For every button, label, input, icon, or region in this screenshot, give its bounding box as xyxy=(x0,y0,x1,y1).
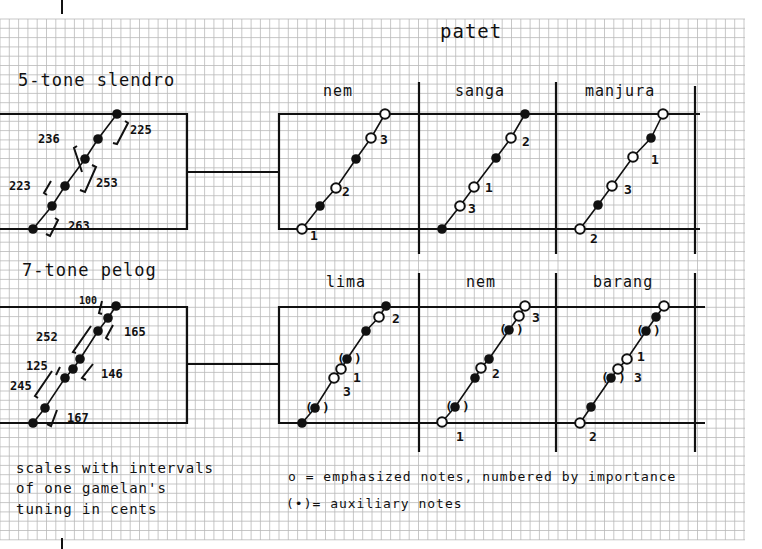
caption-line-3: tuning in cents xyxy=(16,500,157,519)
paren-left: ( xyxy=(601,370,609,385)
emphasized-note-circle xyxy=(437,417,447,427)
emphasized-note-circle xyxy=(455,201,465,211)
auxiliary-note-dot xyxy=(593,200,603,210)
auxiliary-note-dot xyxy=(491,153,501,163)
importance-number: 2 xyxy=(392,311,400,326)
pelog-title: 7-tone pelog xyxy=(22,260,157,280)
auxiliary-note-dot xyxy=(381,301,391,311)
interval-label: 245 xyxy=(10,379,32,393)
importance-number: 2 xyxy=(492,366,500,381)
auxiliary-note-dot xyxy=(470,373,480,383)
paren-right: ) xyxy=(462,399,470,414)
paren-left: ( xyxy=(337,351,345,366)
emphasized-note-circle xyxy=(575,224,585,234)
paren-left: ( xyxy=(445,399,453,414)
importance-number: 1 xyxy=(353,370,361,385)
emphasized-note-circle xyxy=(628,152,638,162)
panel-title-pelog-nem: nem xyxy=(466,273,496,291)
paren-left: ( xyxy=(636,323,644,338)
interval-label: 223 xyxy=(9,179,31,193)
panel-title-slendro-sanga: sanga xyxy=(455,82,505,100)
importance-number: 3 xyxy=(624,182,632,197)
paren-left: ( xyxy=(305,400,313,415)
interval-label: 225 xyxy=(130,123,152,137)
emphasized-note-circle xyxy=(297,224,307,234)
scale-note-dot xyxy=(93,326,103,336)
scale-note-dot xyxy=(47,201,57,211)
auxiliary-note-dot xyxy=(437,224,447,234)
interval-label: 252 xyxy=(36,330,58,344)
importance-number: 3 xyxy=(343,384,351,399)
paren-right: ) xyxy=(354,351,362,366)
scale-note-dot xyxy=(75,354,85,364)
interval-label: 100 xyxy=(79,295,97,306)
importance-number: 2 xyxy=(590,231,598,246)
emphasized-note-circle xyxy=(514,311,524,321)
auxiliary-note-dot xyxy=(351,154,361,164)
main-title-patet: patet xyxy=(440,20,502,42)
legend-auxiliary: (•)= auxiliary notes xyxy=(286,494,463,513)
interval-label: 253 xyxy=(96,176,118,190)
auxiliary-note-dot xyxy=(484,354,494,364)
panel-title-pelog-lima: lima xyxy=(326,273,366,291)
emphasized-note-circle xyxy=(366,133,376,143)
legend-emphasized: o = emphasized notes, numbered by import… xyxy=(288,467,676,486)
emphasized-note-circle xyxy=(329,373,339,383)
interval-label: 165 xyxy=(124,325,146,339)
scale-note-dot xyxy=(60,181,70,191)
interval-label: 263 xyxy=(68,219,90,233)
caption-line-2: of one gamelan's xyxy=(16,479,167,498)
importance-number: 2 xyxy=(342,184,350,199)
scale-note-dot xyxy=(60,373,70,383)
emphasized-note-circle xyxy=(476,363,486,373)
emphasized-note-circle xyxy=(469,182,479,192)
importance-number: 1 xyxy=(485,180,493,195)
paren-right: ) xyxy=(516,322,524,337)
scale-note-dot xyxy=(28,418,38,428)
panel-title-pelog-barang: barang xyxy=(593,273,653,291)
interval-label: 125 xyxy=(26,359,48,373)
importance-number: 3 xyxy=(532,310,540,325)
slendro-title: 5-tone slendro xyxy=(18,70,175,90)
panel-title-slendro-nem: nem xyxy=(323,82,353,100)
paren-right: ) xyxy=(322,400,330,415)
scale-note-dot xyxy=(111,301,121,311)
auxiliary-note-dot xyxy=(315,201,325,211)
emphasized-note-circle xyxy=(506,133,516,143)
scale-note-dot xyxy=(40,403,50,413)
importance-number: 2 xyxy=(589,429,597,444)
auxiliary-note-dot xyxy=(586,402,596,412)
importance-number: 1 xyxy=(651,152,659,167)
scale-note-dot xyxy=(68,364,78,374)
emphasized-note-circle xyxy=(607,181,617,191)
caption-line-1: scales with intervals xyxy=(16,459,214,478)
interval-label: 167 xyxy=(67,411,89,425)
importance-number: 2 xyxy=(522,134,530,149)
importance-number: 1 xyxy=(637,349,645,364)
scale-note-dot xyxy=(103,313,113,323)
emphasized-note-circle xyxy=(374,312,384,322)
importance-number: 1 xyxy=(310,228,318,243)
interval-label: 146 xyxy=(101,367,123,381)
auxiliary-note-dot xyxy=(646,133,656,143)
auxiliary-note-dot xyxy=(361,326,371,336)
emphasized-note-circle xyxy=(658,109,668,119)
panel-title-slendro-manjura: manjura xyxy=(585,82,655,100)
scale-note-dot xyxy=(28,224,38,234)
emphasized-note-circle xyxy=(622,354,632,364)
scale-note-dot xyxy=(112,109,122,119)
importance-number: 3 xyxy=(468,201,476,216)
emphasized-note-circle xyxy=(380,109,390,119)
importance-number: 3 xyxy=(634,370,642,385)
emphasized-note-circle xyxy=(520,301,530,311)
auxiliary-note-dot xyxy=(297,418,307,428)
importance-number: 3 xyxy=(380,132,388,147)
emphasized-note-circle xyxy=(575,418,585,428)
interval-label: 236 xyxy=(38,132,60,146)
scale-note-dot xyxy=(93,134,103,144)
scale-note-dot xyxy=(80,154,90,164)
auxiliary-note-dot xyxy=(651,312,661,322)
emphasized-note-circle xyxy=(331,183,341,193)
importance-number: 1 xyxy=(456,429,464,444)
emphasized-note-circle xyxy=(659,301,669,311)
